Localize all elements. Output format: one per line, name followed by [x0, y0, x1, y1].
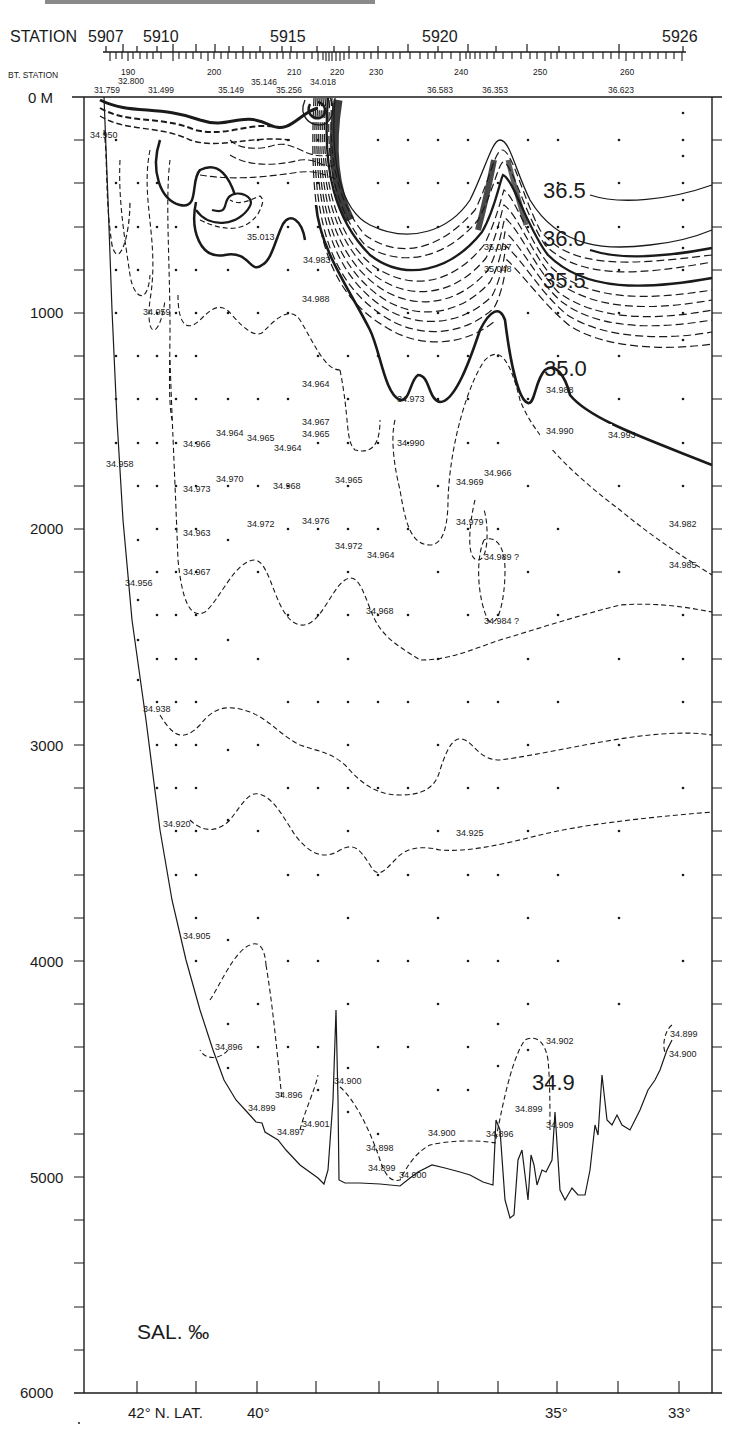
- observation-value: 34.964: [216, 428, 244, 438]
- bt-200-label: 200: [207, 67, 221, 77]
- observation-value: 34.989 ?: [484, 552, 519, 562]
- surface-value: 35.146: [251, 77, 277, 87]
- observation-value: 34.900: [399, 1170, 427, 1180]
- latitude-axis: 42° N. LAT. 40° 35° 33°: [128, 1404, 691, 1421]
- depth-3000-label: 3000: [30, 737, 63, 754]
- surface-value: 36.583: [427, 85, 453, 95]
- observation-value: 34.968: [366, 606, 394, 616]
- isohaline-35-5-label: 35.5: [543, 268, 586, 293]
- surface-value: 31.759: [94, 85, 120, 95]
- observation-value: 34.983: [303, 255, 331, 265]
- observation-value: 34.976: [302, 516, 330, 526]
- observation-value: 34.905: [183, 931, 211, 941]
- observation-value: 34.909: [546, 1120, 574, 1130]
- bt-220-label: 220: [330, 67, 344, 77]
- lat-33-label: 33°: [668, 1404, 691, 1421]
- observation-value: 34.970: [216, 474, 244, 484]
- station-5915-label: 5915: [270, 28, 306, 45]
- observation-value: 34.901: [302, 1119, 330, 1129]
- sample-points: [115, 112, 685, 1136]
- observation-value: 34.899: [248, 1103, 276, 1113]
- observation-value: 34.967: [183, 567, 211, 577]
- observation-value: 34.964: [274, 443, 302, 453]
- observation-value: 34.956: [125, 578, 153, 588]
- bt-260-label: 260: [620, 67, 634, 77]
- observation-value: 34.896: [275, 1090, 303, 1100]
- isohaline-contours-deep: [120, 160, 712, 1180]
- depth-5000-label: 5000: [30, 1169, 63, 1186]
- observation-value: 34.988: [546, 385, 574, 395]
- observation-value: 34.969: [456, 477, 484, 487]
- observation-value: 35.048: [484, 264, 512, 274]
- bt-station-axis-title: BT. STATION: [8, 70, 58, 80]
- observation-value: 34.972: [247, 519, 275, 529]
- stray-mark: [78, 1422, 80, 1424]
- observation-value: 34.965: [302, 429, 330, 439]
- surface-values: 31.759 32.800 31.499 35.149 35.146 35.25…: [94, 76, 634, 95]
- observation-value: 34.965: [335, 475, 363, 485]
- bt-240-label: 240: [454, 67, 468, 77]
- observation-value: 34.973: [397, 394, 425, 404]
- observation-value: 34.967: [302, 417, 330, 427]
- observation-value: 34.988: [302, 294, 330, 304]
- observation-value: 34.925: [456, 828, 484, 838]
- isohaline-36-5-label: 36.5: [543, 178, 586, 203]
- observation-value: 34.973: [183, 484, 211, 494]
- observation-value: 34.899: [515, 1104, 543, 1114]
- observation-value: 34.966: [183, 439, 211, 449]
- lat-42-label: 42° N. LAT.: [128, 1404, 203, 1421]
- observation-value: 34.958: [106, 459, 134, 469]
- observation-value: 34.972: [335, 541, 363, 551]
- surface-value: 34.018: [310, 77, 336, 87]
- observation-value: 34.896: [215, 1042, 243, 1052]
- station-5926-label: 5926: [662, 28, 698, 45]
- depth-1000-label: 1000: [30, 304, 63, 321]
- surface-value: 36.353: [482, 85, 508, 95]
- observation-value: 34.959: [143, 307, 171, 317]
- observation-value: 34.982: [669, 519, 697, 529]
- salinity-section-chart: STATION 5907 5910 5915 5920 5926 BT. STA…: [0, 0, 738, 1429]
- observation-value: 34.938: [143, 704, 171, 714]
- lat-40-label: 40°: [247, 1404, 270, 1421]
- surface-value: 35.256: [276, 85, 302, 95]
- isohaline-contours-gulfstream: [313, 98, 712, 465]
- observation-value: 34.990: [397, 438, 425, 448]
- station-5920-label: 5920: [422, 28, 458, 45]
- observation-value: 35.013: [247, 232, 275, 242]
- isohaline-labels: 36.5 36.0 35.5 35.0 34.9: [532, 178, 612, 1095]
- observation-value: 34.900: [334, 1076, 362, 1086]
- observation-value: 34.964: [302, 379, 330, 389]
- bt-250-label: 250: [533, 67, 547, 77]
- depth-6000-label: 6000: [20, 1384, 53, 1401]
- observation-values: 34.950 35.013 34.983 34.988 34.959 35.03…: [90, 130, 698, 1180]
- station-5907-label: 5907: [88, 28, 124, 45]
- observation-value: 34.898: [366, 1143, 394, 1153]
- observation-value: 34.979: [456, 517, 484, 527]
- observation-value: 34.985: [669, 560, 697, 570]
- lat-35-label: 35°: [545, 1404, 568, 1421]
- bt-210-label: 210: [287, 67, 301, 77]
- observation-value: 35.037: [484, 242, 512, 252]
- depth-4000-label: 4000: [30, 953, 63, 970]
- observation-value: 34.920: [163, 819, 191, 829]
- isohaline-36-0-label: 36.0: [543, 226, 586, 251]
- isohaline-34-9-label: 34.9: [532, 1070, 575, 1095]
- observation-value: 34.963: [183, 528, 211, 538]
- depth-2000-label: 2000: [30, 520, 63, 537]
- isohaline-35-0-label: 35.0: [544, 356, 587, 381]
- bt-230-label: 230: [369, 67, 383, 77]
- observation-value: 34.984 ?: [484, 616, 519, 626]
- cropped-heading-remnant: [45, 0, 375, 4]
- observation-value: 34.896: [486, 1129, 514, 1139]
- observation-value: 34.950: [90, 130, 118, 140]
- surface-value: 31.499: [148, 85, 174, 95]
- observation-value: 34.899: [368, 1163, 396, 1173]
- observation-value: 34.965: [247, 433, 275, 443]
- observation-value: 34.964: [367, 550, 395, 560]
- observation-value: 34.900: [428, 1128, 456, 1138]
- station-axis: STATION 5907 5910 5915 5920 5926 BT. STA…: [8, 28, 698, 80]
- surface-value: 35.149: [218, 85, 244, 95]
- depth-axis: 0 M 1000 2000 3000 4000 5000 6000: [20, 89, 63, 1401]
- surface-value: 36.623: [608, 85, 634, 95]
- observation-value: 34.902: [546, 1036, 574, 1046]
